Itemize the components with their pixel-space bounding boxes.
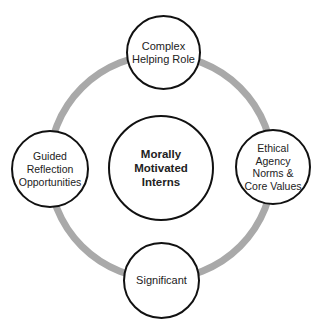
node-label: Ethical Agency Norms & Core Values [244,142,301,192]
center-node-label: Morally Motivated Interns [134,147,188,189]
node-label: Complex Helping Role [132,40,195,66]
node-guided-reflection: Guided Reflection Opportunities [11,130,89,208]
node-label: Guided Reflection Opportunities [19,150,81,189]
center-node: Morally Motivated Interns [108,115,214,221]
cycle-diagram: Morally Motivated Interns Complex Helpin… [0,0,318,335]
node-ethical-agency: Ethical Agency Norms & Core Values [235,129,311,205]
node-label: Significant [136,274,187,287]
node-complex-helping-role: Complex Helping Role [126,15,201,90]
node-significant: Significant [123,242,200,319]
